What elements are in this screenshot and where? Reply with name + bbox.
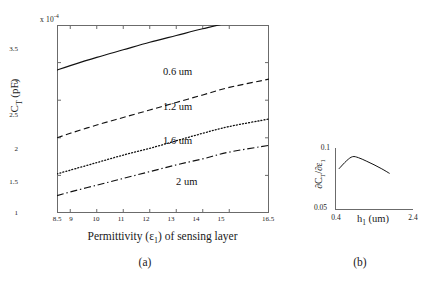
y-tick-a-5: 1 [0,209,18,217]
x-axis-label-b: h1 (um) [318,213,428,227]
x-tick-a-3: 11 [108,215,134,223]
x-tick-a-7: 15 [208,215,234,223]
panel-a-curves [57,25,269,213]
y-tick-b-1: 0.05 [297,203,327,212]
y-tick-b-0: 0.1 [300,143,330,152]
panel-a: x 10-4 CT (pF) 3.5 3 2.5 2 1.5 1 8.5 9 1… [0,0,290,289]
x-tick-a-8: 16.5 [255,215,281,223]
x-tick-a-1: 9 [58,215,84,223]
curve-label-3: 2 um [176,176,197,187]
curve-label-2: 1.6 um [163,135,192,146]
figure-container: x 10-4 CT (pF) 3.5 3 2.5 2 1.5 1 8.5 9 1… [0,0,433,289]
x-tick-a-2: 10 [83,215,109,223]
y-axis-label-b: ∂CT/∂ε1 [314,143,326,205]
y-tick-a-1: 3 [0,78,18,86]
y-axis-exponent-a: x 10-4 [40,13,59,24]
y-tick-a-3: 2 [0,145,18,153]
y-tick-a-4: 1.5 [0,178,18,186]
caption-panel-a: (a) [115,256,175,268]
x-tick-a-4: 12 [133,215,159,223]
caption-panel-b: (b) [330,256,390,268]
panel-b: ∂CT/∂ε1 0.1 0.05 0.4 2.4 h1 (um) [290,0,433,289]
panel-b-plot-area [335,148,413,210]
curve-label-1: 1.2 um [163,101,192,112]
y-tick-a-2: 2.5 [0,111,18,119]
x-tick-a-6: 14 [183,215,209,223]
x-tick-a-5: 13 [158,215,184,223]
curve-label-0: 0.6 um [163,66,192,77]
panel-b-curve [335,148,413,210]
y-axis-label-a: CT (pF) [8,60,23,132]
y-tick-a-0: 3.5 [0,45,18,53]
panel-a-plot-area [57,25,269,213]
x-axis-label-a: Permittivity (ε1) of sensing layer [30,230,295,245]
